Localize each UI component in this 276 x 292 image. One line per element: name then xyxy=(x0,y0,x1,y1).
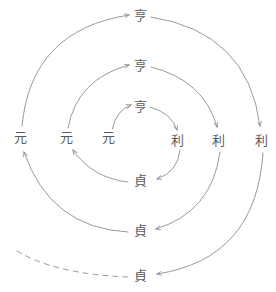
label-yuan-middle: 元 xyxy=(59,130,74,145)
arc-outer-zhen-tail xyxy=(14,249,128,277)
spiral-cycle-diagram: 亨 亨 亨 元 元 元 利 利 利 貞 貞 貞 xyxy=(0,0,276,292)
arc-outer-li-zhen xyxy=(157,153,263,274)
label-heng-inner: 亨 xyxy=(133,99,148,114)
arc-inner-yuan-heng xyxy=(112,105,131,130)
arc-inner-heng-li xyxy=(150,107,177,130)
arc-inner-li-zhen xyxy=(157,150,180,179)
arc-mid-yuan-heng xyxy=(68,65,129,128)
label-zhen-outer: 貞 xyxy=(133,268,148,283)
label-heng-outer: 亨 xyxy=(133,8,148,23)
label-li-inner: 利 xyxy=(170,133,185,148)
label-li-outer: 利 xyxy=(254,133,269,148)
label-heng-middle: 亨 xyxy=(133,58,148,73)
label-zhen-inner: 貞 xyxy=(133,173,148,188)
label-yuan-outer: 元 xyxy=(13,130,28,145)
arc-inner-zhen-yuan xyxy=(73,150,128,182)
arc-mid-zhen-yuan xyxy=(24,152,128,232)
arc-outer-heng-li xyxy=(151,17,260,126)
label-li-middle: 利 xyxy=(211,133,226,148)
label-yuan-inner: 元 xyxy=(101,130,116,145)
arc-mid-heng-li xyxy=(151,67,217,127)
label-zhen-middle: 貞 xyxy=(133,223,148,238)
arc-mid-li-zhen xyxy=(156,152,220,229)
spiral-paths-canvas xyxy=(0,0,276,292)
